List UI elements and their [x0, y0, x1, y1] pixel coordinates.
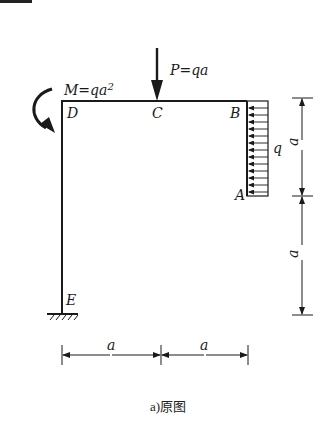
- point-e-label: E: [65, 292, 76, 308]
- point-load-arrow-icon: [151, 48, 163, 101]
- distributed-load: [247, 101, 268, 196]
- dim-vertical-upper: a: [285, 138, 301, 146]
- frame-diagram: P=qa M=qa2 D C B A E q a a a a a)原图: [0, 0, 336, 422]
- fixed-support-icon: [47, 314, 78, 320]
- dim-horizontal-left: a: [107, 337, 115, 353]
- distributed-load-label: q: [273, 140, 282, 156]
- frame-structure: [61, 101, 247, 314]
- figure-caption: a)原图: [150, 399, 186, 414]
- horizontal-dimensions: [62, 345, 248, 365]
- dim-vertical-lower: a: [285, 250, 301, 258]
- point-c-label: C: [152, 105, 163, 121]
- dim-horizontal-right: a: [200, 337, 208, 353]
- point-b-label: B: [229, 105, 240, 121]
- moment-arc-icon: [34, 89, 55, 133]
- cropped-bar: [0, 0, 32, 3]
- point-a-label: A: [233, 187, 245, 203]
- moment-label: M=qa2: [63, 81, 114, 98]
- point-load-label: P=qa: [169, 62, 208, 78]
- point-d-label: D: [66, 105, 78, 121]
- vertical-dimensions: [292, 98, 313, 315]
